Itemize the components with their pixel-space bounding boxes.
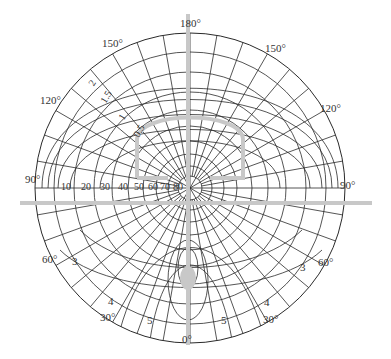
radial-label-60: 60 (148, 182, 158, 192)
angle-label-30-right: 30° (263, 314, 278, 325)
curve-label-3-left: 3 (72, 256, 78, 267)
radial-label-20: 20 (81, 182, 91, 192)
radial-label-50: 50 (134, 182, 144, 192)
highlight-lobe (180, 266, 196, 290)
angle-label-120-left: 120° (40, 95, 61, 106)
angle-label-150-right: 150° (265, 43, 286, 54)
angle-label-120-right: 120° (320, 103, 341, 114)
angle-label-90-right: 90° (340, 180, 355, 191)
radial-label-40: 40 (118, 182, 128, 192)
radial-label-70: 70 (160, 182, 170, 192)
angle-label-180: 180° (180, 18, 201, 29)
angle-label-60-right: 60° (318, 257, 333, 268)
radial-label-30: 30 (100, 182, 110, 192)
curve-label-5-right: 5 (221, 315, 227, 326)
curve-label-4-left: 4 (108, 296, 114, 307)
angle-label-30-left: 30° (100, 312, 115, 323)
angle-label-60-left: 60° (42, 254, 57, 265)
radial-label-10: 10 (61, 182, 71, 192)
curve-label-5-left: 5 (147, 315, 153, 326)
angle-label-0: 0° (182, 334, 192, 345)
radial-label-80: 80 (173, 182, 183, 192)
angle-label-90-left: 90° (25, 174, 40, 185)
curve-label-3-right: 3 (300, 262, 306, 273)
polar-diagram (0, 0, 391, 359)
angle-label-150-left: 150° (102, 38, 123, 49)
curve-label-4-right: 4 (264, 297, 270, 308)
highlight-overlay (20, 14, 372, 345)
